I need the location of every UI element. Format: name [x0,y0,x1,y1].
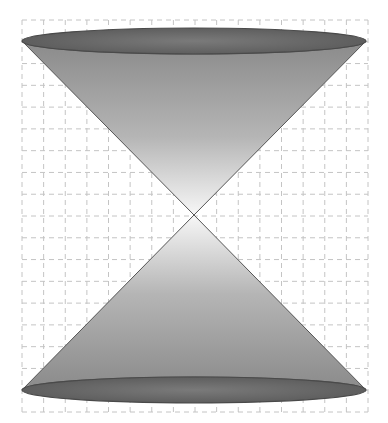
lower-cone [22,215,366,390]
upper-cone [22,41,366,215]
top-ellipse [22,28,366,54]
double-cone-figure [0,0,388,423]
double-cone-svg [0,0,388,423]
bottom-ellipse [22,377,366,403]
